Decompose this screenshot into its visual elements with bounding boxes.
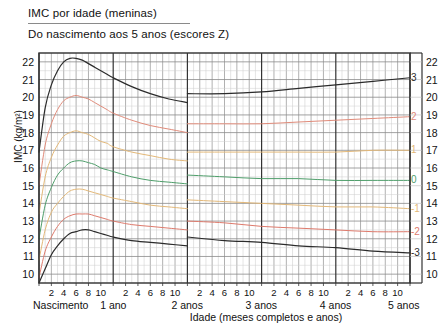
y-tick-right-11: 11 xyxy=(426,251,444,261)
y-tick-right-13: 13 xyxy=(426,216,444,226)
x-label-birth: Nascimento xyxy=(33,300,88,311)
y-tick-left-22: 22 xyxy=(12,57,34,67)
growth-chart: IMC por idade (meninas) Do nascimento ao… xyxy=(0,0,444,329)
y-tick-left-12: 12 xyxy=(12,234,34,244)
z-label-minus3: -3 xyxy=(411,248,420,258)
y-tick-right-10: 10 xyxy=(426,269,444,279)
title-underline xyxy=(28,23,190,24)
z-label-2: 2 xyxy=(411,112,417,122)
x-month-tick-58: 10 xyxy=(391,288,405,298)
y-tick-left-16: 16 xyxy=(12,163,34,173)
y-tick-right-21: 21 xyxy=(426,75,444,85)
y-tick-right-12: 12 xyxy=(426,234,444,244)
chart-title: IMC por idade (meninas) xyxy=(28,7,157,19)
x-year-label-5-anos: 5 anos xyxy=(388,300,420,311)
y-tick-right-19: 19 xyxy=(426,110,444,120)
y-tick-left-21: 21 xyxy=(12,75,34,85)
z-label-3: 3 xyxy=(411,73,417,83)
x-axis-label: Idade (meses completos e anos) xyxy=(0,311,444,323)
y-tick-right-20: 20 xyxy=(426,92,444,102)
y-tick-left-20: 20 xyxy=(12,92,34,102)
y-tick-right-14: 14 xyxy=(426,198,444,208)
z-label-0: 0 xyxy=(411,175,417,185)
y-tick-right-22: 22 xyxy=(426,57,444,67)
x-year-label-4-anos: 4 anos xyxy=(320,300,352,311)
y-tick-left-19: 19 xyxy=(12,110,34,120)
y-tick-right-18: 18 xyxy=(426,128,444,138)
x-month-tick-10: 10 xyxy=(94,288,108,298)
x-month-tick-34: 10 xyxy=(242,288,256,298)
x-year-label-2-anos: 2 anos xyxy=(171,300,203,311)
y-tick-left-17: 17 xyxy=(12,145,34,155)
chart-subtitle: Do nascimento aos 5 anos (escores Z) xyxy=(28,28,229,40)
y-tick-left-10: 10 xyxy=(12,269,34,279)
y-tick-left-14: 14 xyxy=(12,198,34,208)
y-tick-left-11: 11 xyxy=(12,251,34,261)
x-year-label-3-anos: 3 anos xyxy=(246,300,278,311)
z-label-minus2: -2 xyxy=(411,227,420,237)
y-tick-right-16: 16 xyxy=(426,163,444,173)
plot-canvas xyxy=(0,0,444,329)
x-month-tick-46: 10 xyxy=(316,288,330,298)
z-label-minus1: -1 xyxy=(411,204,420,214)
x-year-label-1-ano: 1 ano xyxy=(100,300,126,311)
y-tick-left-13: 13 xyxy=(12,216,34,226)
x-month-tick-22: 10 xyxy=(168,288,182,298)
y-tick-left-18: 18 xyxy=(12,128,34,138)
z-label-1: 1 xyxy=(411,145,417,155)
y-tick-left-15: 15 xyxy=(12,181,34,191)
y-tick-right-17: 17 xyxy=(426,145,444,155)
y-tick-right-15: 15 xyxy=(426,181,444,191)
